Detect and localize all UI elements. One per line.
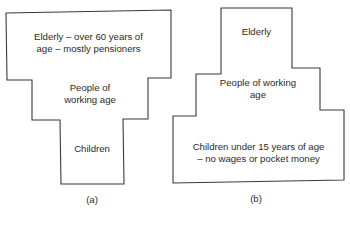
a-children-label: Children [60, 143, 124, 155]
b-children-label: Children under 15 years of age – no wage… [173, 141, 344, 165]
b-caption: (b) [220, 193, 292, 205]
b-working-age-label: People of working age [196, 77, 320, 101]
b-elderly-label: Elderly [221, 26, 292, 38]
a-caption: (a) [60, 194, 124, 206]
a-elderly-label: Elderly – over 60 years of age – mostly … [6, 31, 171, 55]
a-working-age-label: People of working age [32, 82, 148, 106]
